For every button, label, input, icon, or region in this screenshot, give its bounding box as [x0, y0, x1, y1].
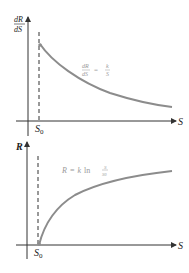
svg-text:=: =	[94, 66, 98, 74]
top-start-point	[38, 43, 42, 47]
bottom-annotation: R=kln S S0	[61, 165, 108, 177]
svg-text:R=kln: R=kln	[61, 166, 90, 175]
svg-text:k: k	[106, 63, 109, 69]
top-xlabel: S	[178, 116, 183, 127]
svg-text:S0: S0	[102, 172, 107, 177]
top-ylabel-den: dS	[14, 25, 22, 34]
bottom-start-point	[37, 242, 41, 246]
top-annotation: dR dS = k S	[82, 63, 110, 77]
top-ylabel-num: dR	[14, 15, 23, 24]
bottom-s0-tick-label: S0	[34, 247, 43, 260]
marginal-utility-chart: dR dS S S0 dR dS = k S	[14, 15, 183, 136]
svg-text:dS: dS	[82, 71, 88, 77]
bottom-ylabel: R	[15, 141, 23, 152]
svg-text:dR: dR	[82, 63, 89, 69]
charts-canvas: dR dS S S0 dR dS = k S R S S0 R=kln S S0	[0, 0, 189, 273]
total-utility-chart: R S S0 R=kln S S0	[15, 141, 183, 260]
top-s0-tick-label: S0	[35, 123, 44, 136]
bottom-xlabel: S	[178, 240, 183, 251]
bottom-log-curve	[39, 171, 172, 245]
svg-text:S: S	[106, 71, 109, 77]
svg-text:S: S	[104, 165, 107, 170]
